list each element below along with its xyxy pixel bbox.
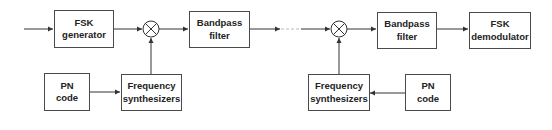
rx-frequency-synthesizers-block: Frequency synthesizers: [308, 74, 370, 111]
rx-bandpass-filter-block: Bandpass filter: [377, 12, 437, 49]
tx-frequency-synthesizers-block: Frequency synthesizers: [121, 74, 182, 111]
rx-mixer-icon: [331, 21, 347, 37]
tx-mixer-icon: [143, 21, 159, 37]
tx-bandpass-filter-block: Bandpass filter: [189, 11, 250, 48]
tx-pn-code-block: PN code: [44, 73, 90, 111]
fsk-generator-block: FSK generator: [54, 10, 114, 48]
fsk-demodulator-block: FSK demodulator: [469, 12, 531, 49]
rx-pn-code-block: PN code: [405, 74, 451, 111]
